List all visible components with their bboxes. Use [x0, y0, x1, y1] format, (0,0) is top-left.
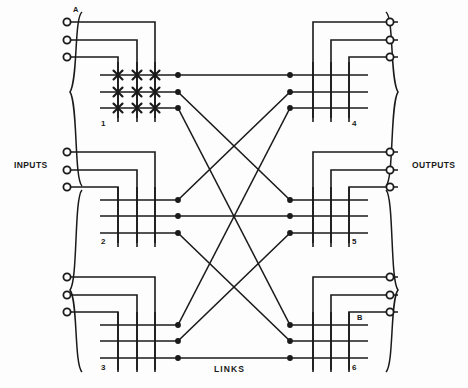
- matrix-1-buses: [100, 75, 178, 108]
- output-terminal: [386, 291, 393, 298]
- input-group-3-leads: [70, 277, 155, 370]
- matrix-label-5: 5: [352, 237, 357, 246]
- input-terminal: [63, 166, 70, 173]
- point-a-label: A: [73, 5, 79, 14]
- input-terminal: [63, 53, 70, 60]
- point-b-label: B: [357, 313, 363, 322]
- input-terminal: [63, 148, 70, 155]
- matrix-label-1: 1: [101, 119, 106, 128]
- input-terminal: [63, 291, 70, 298]
- matrix-label-4: 4: [352, 119, 357, 128]
- matrix-2-buses: [100, 200, 178, 233]
- output-terminal: [386, 53, 393, 60]
- matrix-6-buses: [290, 325, 368, 358]
- link-wires: [178, 75, 290, 358]
- matrix-label-6: 6: [352, 363, 357, 372]
- output-terminal: [386, 183, 393, 190]
- input-group-2-leads: [70, 152, 155, 243]
- output-terminal: [386, 18, 393, 25]
- matrix-3-buses: [100, 325, 178, 358]
- input-terminal: [63, 36, 70, 43]
- outputs-label: OUTPUTS: [412, 160, 455, 170]
- output-group-5-leads: [313, 152, 398, 243]
- output-terminal: [386, 308, 393, 315]
- matrix-label-3: 3: [101, 363, 106, 372]
- links-label: LINKS: [214, 364, 245, 374]
- output-terminal: [386, 166, 393, 173]
- inputs-brace-top: [70, 12, 82, 186]
- matrix-4-buses: [290, 75, 368, 108]
- inputs-label: INPUTS: [14, 160, 48, 170]
- input-terminal: [63, 308, 70, 315]
- matrix-5-buses: [290, 200, 368, 233]
- network-diagram-svg: [0, 0, 468, 388]
- input-terminal: [63, 273, 70, 280]
- output-terminal: [386, 148, 393, 155]
- input-terminal: [63, 18, 70, 25]
- output-terminal: [386, 273, 393, 280]
- output-terminal: [386, 36, 393, 43]
- inputs-brace-bottom: [70, 190, 82, 372]
- input-terminal: [63, 183, 70, 190]
- matrix-label-2: 2: [101, 237, 106, 246]
- input-terminals[interactable]: [63, 18, 70, 315]
- output-group-6-leads: [313, 277, 398, 370]
- diagram-canvas: INPUTS OUTPUTS LINKS A B 1 2 3 4 5 6: [0, 0, 468, 388]
- output-group-4-leads: [313, 22, 398, 118]
